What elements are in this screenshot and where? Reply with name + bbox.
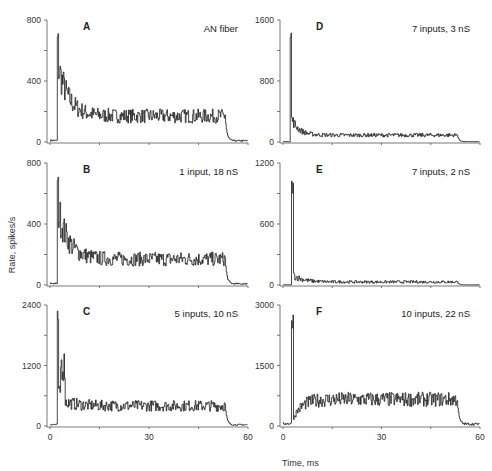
y-tick-label: 0: [269, 421, 274, 431]
panel-letter: F: [316, 306, 322, 317]
y-tick-label: 600: [260, 219, 274, 229]
psth-trace: [50, 177, 247, 284]
x-tick-label: 60: [475, 432, 485, 442]
panel-e: 06001200E7 inputs, 2 nS: [255, 158, 480, 290]
x-tick-label: 0: [48, 432, 53, 442]
panel-condition-label: AN fiber: [204, 23, 238, 34]
y-tick-label: 3000: [255, 300, 274, 310]
y-tick-label: 1500: [255, 361, 274, 371]
x-tick-label: 60: [243, 432, 253, 442]
panel-condition-label: 5 inputs, 10 nS: [175, 308, 238, 319]
y-tick-label: 2400: [22, 300, 41, 310]
x-tick-label: 30: [144, 432, 154, 442]
y-tick-label: 1600: [255, 15, 274, 25]
y-tick-label: 400: [27, 76, 41, 86]
y-tick-label: 800: [27, 158, 41, 168]
x-tick-label: 0: [281, 432, 286, 442]
y-tick-label: 1200: [22, 361, 41, 371]
panel-a: 0400800AAN fiber: [27, 15, 248, 147]
panel-d: 08001600D7 inputs, 3 nS: [255, 15, 480, 147]
x-tick-label: 30: [377, 432, 387, 442]
y-tick-label: 0: [269, 137, 274, 147]
panel-letter: E: [316, 164, 323, 175]
x-axis-title: Time, ms: [282, 458, 319, 468]
panel-condition-label: 7 inputs, 3 nS: [412, 23, 470, 34]
y-tick-label: 0: [36, 280, 41, 290]
panel-letter: A: [83, 21, 90, 32]
panel-condition-label: 10 inputs, 22 nS: [401, 308, 470, 319]
panel-condition-label: 1 input, 18 nS: [179, 166, 238, 177]
panel-c: 01200240003060C5 inputs, 10 nS: [22, 300, 253, 442]
psth-trace: [50, 34, 247, 142]
panel-letter: B: [83, 164, 90, 175]
y-tick-label: 0: [36, 137, 41, 147]
psth-trace: [283, 315, 479, 425]
y-axis-title: Rate, spikes/s: [7, 216, 17, 273]
y-tick-label: 400: [27, 219, 41, 229]
panel-letter: D: [316, 21, 323, 32]
psth-trace: [50, 311, 247, 426]
y-tick-label: 800: [27, 15, 41, 25]
panel-letter: C: [83, 306, 90, 317]
psth-figure: 0400800AAN fiber0400800B1 input, 18 nS01…: [0, 0, 492, 471]
panel-condition-label: 7 inputs, 2 nS: [412, 166, 470, 177]
psth-trace: [283, 181, 479, 285]
psth-trace: [283, 33, 479, 142]
y-tick-label: 800: [260, 76, 274, 86]
y-tick-label: 0: [269, 280, 274, 290]
panel-b: 0400800B1 input, 18 nS: [27, 158, 248, 290]
y-tick-label: 1200: [255, 158, 274, 168]
y-tick-label: 0: [36, 421, 41, 431]
panel-f: 01500300003060F10 inputs, 22 nS: [255, 300, 485, 442]
